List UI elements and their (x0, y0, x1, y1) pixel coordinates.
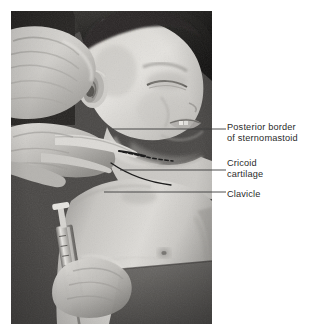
photograph-image (11, 11, 212, 324)
label-posterior-border-of-sternomastoid: Posterior border of sternomastoid (227, 122, 298, 144)
clinical-photograph (11, 11, 212, 324)
label-cricoid-cartilage: Cricoid cartilage (227, 158, 263, 180)
figure-root: Posterior border of sternomastoid Cricoi… (0, 0, 316, 336)
label-clavicle: Clavicle (227, 189, 261, 200)
